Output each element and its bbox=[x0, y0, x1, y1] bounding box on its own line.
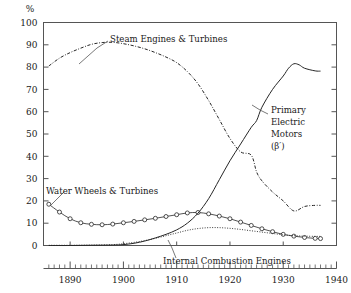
x-tick-label: 1920 bbox=[219, 275, 242, 285]
data-point-marker bbox=[319, 237, 323, 241]
data-point-marker bbox=[79, 221, 83, 225]
water-wheels-label: Water Wheels & Turbines bbox=[46, 186, 158, 196]
data-point-marker bbox=[89, 222, 93, 226]
data-point-marker bbox=[153, 216, 157, 220]
y-tick-label: 90 bbox=[26, 40, 38, 50]
data-point-marker bbox=[57, 210, 61, 214]
data-point-marker bbox=[260, 227, 264, 231]
data-point-marker bbox=[121, 221, 125, 225]
data-point-marker bbox=[239, 220, 243, 224]
data-point-marker bbox=[292, 234, 296, 238]
internal-combustion-label: Internal Combustion Engines bbox=[163, 256, 291, 266]
data-point-marker bbox=[47, 202, 51, 206]
x-tick-label: 1890 bbox=[59, 275, 82, 285]
x-tick-label: 1930 bbox=[272, 275, 295, 285]
y-tick-label: 0 bbox=[32, 241, 38, 251]
data-point-marker bbox=[217, 214, 221, 218]
y-tick-label: 40 bbox=[26, 152, 38, 162]
data-point-marker bbox=[207, 212, 211, 216]
x-tick-label: 1910 bbox=[165, 275, 188, 285]
data-point-marker bbox=[249, 223, 253, 227]
y-tick-label: 30 bbox=[26, 174, 38, 184]
steam-engines-label: Steam Engines & Turbines bbox=[110, 34, 227, 44]
data-point-marker bbox=[185, 211, 189, 215]
primary-electric-motors-line2: Electric bbox=[271, 117, 305, 127]
chart-container: % 0102030405060708090100 189019001910192… bbox=[0, 0, 351, 293]
data-point-marker bbox=[175, 213, 179, 217]
y-tick-label: 20 bbox=[26, 196, 38, 206]
y-tick-label: 80 bbox=[26, 62, 38, 72]
y-axis-unit-label: % bbox=[26, 4, 35, 14]
data-point-marker bbox=[68, 217, 72, 221]
primary-electric-motors-line3: Motors bbox=[271, 129, 302, 139]
data-point-marker bbox=[164, 215, 168, 219]
data-point-marker bbox=[228, 217, 232, 221]
y-tick-label: 60 bbox=[26, 107, 38, 117]
primary-electric-motors-line1: Primary bbox=[271, 105, 306, 115]
energy-sources-line-chart: % 0102030405060708090100 189019001910192… bbox=[0, 0, 351, 293]
y-tick-label: 10 bbox=[26, 218, 38, 228]
data-point-marker bbox=[111, 222, 115, 226]
primary-electric-motors-symbol: (β′) bbox=[271, 141, 285, 151]
x-tick-label: 1900 bbox=[112, 275, 135, 285]
data-point-marker bbox=[132, 219, 136, 223]
data-point-marker bbox=[100, 223, 104, 227]
y-tick-label: 100 bbox=[20, 18, 37, 28]
data-point-marker bbox=[143, 218, 147, 222]
data-point-marker bbox=[313, 236, 317, 240]
y-tick-label: 70 bbox=[26, 85, 38, 95]
y-tick-label: 50 bbox=[26, 129, 38, 139]
x-tick-label: 1940 bbox=[325, 275, 348, 285]
